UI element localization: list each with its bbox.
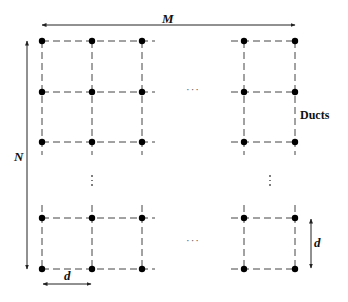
duct-nodes [39, 38, 298, 272]
ellipsis-vertical-left [91, 175, 93, 189]
label-d-horizontal: d [64, 268, 71, 284]
duct-grid-diagram [0, 0, 348, 302]
ellipsis-horizontal-top: ··· [186, 83, 200, 95]
label-n: N [14, 149, 23, 165]
duct-lines [42, 41, 295, 269]
label-d-vertical: d [314, 235, 321, 251]
ellipsis-vertical-right [269, 175, 271, 189]
ellipsis-horizontal-bottom: ··· [186, 234, 200, 246]
label-ducts: Ducts [300, 108, 329, 123]
label-m: M [162, 11, 174, 27]
